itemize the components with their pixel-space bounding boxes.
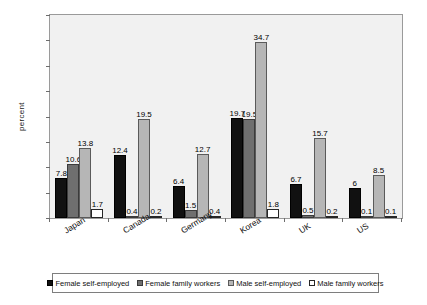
x-axis-tick-mark	[166, 218, 167, 222]
bar-value-label: 6	[352, 179, 356, 188]
x-axis-tick-mark	[284, 218, 285, 222]
legend-item[interactable]: Female family workers	[137, 279, 220, 288]
x-axis-tick-mark	[108, 218, 109, 222]
x-axis-tick-mark	[401, 218, 402, 222]
legend-label: Female family workers	[145, 279, 220, 288]
bar-value-label: 12.4	[112, 146, 128, 155]
plot-area: 40353025201510507.810.613.81.712.40.419.…	[49, 14, 403, 219]
bar-group: 12.40.419.50.2	[109, 15, 168, 218]
bar[interactable]: 6	[349, 188, 361, 218]
chart-legend: Female self-employedFemale family worker…	[52, 273, 379, 293]
bar-value-label: 1.7	[92, 200, 103, 209]
bar-value-label: 34.7	[254, 33, 270, 42]
bar-value-label: 7.8	[56, 169, 67, 178]
bar-group-bars: 12.40.419.50.2	[109, 15, 168, 218]
bar-group-bars: 60.18.50.1	[343, 15, 402, 218]
legend-label: Male family workers	[317, 279, 383, 288]
bar-group-bars: 7.810.613.81.7	[50, 15, 109, 218]
bar-value-label: 12.7	[195, 145, 211, 154]
bar-value-label: 15.7	[312, 129, 328, 138]
legend-swatch	[137, 280, 143, 286]
bar-value-label: 0.1	[385, 207, 396, 216]
bar[interactable]: 19.7	[231, 118, 243, 218]
bar-value-label: 6.4	[173, 177, 184, 186]
bar-value-label: 0.4	[126, 207, 137, 216]
bar[interactable]: 13.8	[79, 148, 91, 218]
bar-value-label: 1.5	[185, 201, 196, 210]
bar-value-label: 0.1	[361, 207, 372, 216]
bar-group-bars: 19.719.534.71.8	[226, 15, 285, 218]
bar[interactable]: 34.7	[255, 42, 267, 218]
bar-group: 19.719.534.71.8	[226, 15, 285, 218]
legend-item[interactable]: Male family workers	[309, 279, 383, 288]
bar[interactable]: 1.8	[267, 209, 279, 218]
bar-value-label: 0.5	[302, 206, 313, 215]
plot-inner: 40353025201510507.810.613.81.712.40.419.…	[50, 15, 402, 218]
legend-item[interactable]: Female self-employed	[47, 279, 129, 288]
bar-group: 6.70.515.70.2	[285, 15, 344, 218]
bar-group-bars: 6.70.515.70.2	[285, 15, 344, 218]
bar-value-label: 0.2	[326, 207, 337, 216]
x-axis-tick-mark	[49, 218, 50, 222]
bar-value-label: 0.2	[150, 207, 161, 216]
bar-group-bars: 6.41.512.70.4	[167, 15, 226, 218]
bar[interactable]: 7.8	[55, 178, 67, 218]
bar-value-label: 1.8	[268, 200, 279, 209]
legend-label: Female self-employed	[55, 279, 129, 288]
y-axis-title: percent	[17, 82, 26, 152]
bar-chart-figure: percent 40353025201510507.810.613.81.712…	[0, 0, 427, 305]
x-axis-tick-mark	[342, 218, 343, 222]
bar-group: 7.810.613.81.7	[50, 15, 109, 218]
bar[interactable]: 6.4	[173, 186, 185, 218]
legend-swatch	[309, 280, 315, 286]
bar[interactable]: 8.5	[373, 175, 385, 218]
bar[interactable]: 1.7	[91, 209, 103, 218]
bar-value-label: 13.8	[78, 139, 94, 148]
x-axis	[49, 218, 403, 224]
legend-label: Male self-employed	[236, 279, 301, 288]
bar[interactable]: 19.5	[138, 119, 150, 218]
bar-group: 60.18.50.1	[343, 15, 402, 218]
legend-swatch	[228, 280, 234, 286]
bar[interactable]: 12.4	[114, 155, 126, 218]
bar-value-label: 19.5	[136, 110, 152, 119]
bar[interactable]: 6.7	[290, 184, 302, 218]
bar-value-label: 6.7	[290, 175, 301, 184]
legend-swatch	[47, 280, 53, 286]
x-axis-tick-mark	[225, 218, 226, 222]
bar[interactable]: 15.7	[314, 138, 326, 218]
bar[interactable]: 10.6	[67, 164, 79, 218]
bar-value-label: 8.5	[373, 166, 384, 175]
bar[interactable]: 19.5	[243, 119, 255, 218]
legend-item[interactable]: Male self-employed	[228, 279, 301, 288]
bar-group: 6.41.512.70.4	[167, 15, 226, 218]
